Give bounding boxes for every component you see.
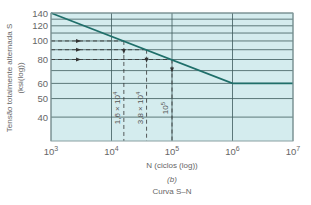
y-tick-label: 100 (32, 35, 48, 46)
x-tick-label: 107 (286, 145, 301, 157)
y-tick-label: 140 (32, 8, 48, 19)
y-tick-label: 60 (37, 78, 48, 89)
sn-curve-chart: 14012010080605040 103104105106107 1,6 × … (0, 0, 311, 205)
y-tick-label: 120 (32, 20, 48, 31)
x-axis-title: N (ciclos (log)) (146, 161, 198, 170)
y-axis-units: (ksi(log)) (16, 62, 25, 93)
y-tick-label: 40 (37, 112, 48, 123)
x-tick-labels: 103104105106107 (44, 145, 301, 157)
y-tick-label: 80 (37, 54, 48, 65)
figure-caption: Curva S–N (152, 187, 191, 196)
y-tick-label: 50 (37, 93, 48, 104)
cycle-annotation-label: 1,6 × 104 (112, 91, 122, 124)
x-tick-label: 104 (104, 145, 119, 157)
cycle-annotation-label: 3,8 × 104 (135, 91, 145, 124)
x-tick-label: 105 (165, 145, 180, 157)
x-tick-label: 103 (44, 145, 59, 157)
x-tick-label: 106 (225, 145, 240, 157)
y-axis-title: Tensão totalmente alternada S (5, 24, 14, 133)
figure-subtitle: (b) (167, 175, 177, 184)
y-tick-labels: 14012010080605040 (32, 8, 48, 123)
